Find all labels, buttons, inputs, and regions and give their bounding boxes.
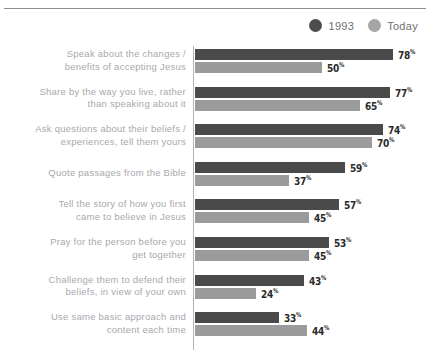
bar-pair: 53%45% xyxy=(195,237,430,263)
category-label-line: Pray for the person before you xyxy=(0,236,186,249)
category-label: Speak about the changes /benefits of acc… xyxy=(0,48,186,73)
percent-sign: % xyxy=(296,311,301,319)
bar-value-label: 37% xyxy=(294,174,311,188)
bar-row: 77% xyxy=(195,87,430,98)
bar-value-number: 74 xyxy=(388,124,400,137)
category-label-line: Tell the story of how you first xyxy=(0,198,186,211)
bar-past xyxy=(195,49,393,60)
bar-past xyxy=(195,162,345,173)
bar-value-label: 45% xyxy=(314,249,331,263)
percent-sign: % xyxy=(356,198,361,206)
category-label-line: Ask questions about their beliefs / xyxy=(0,123,186,136)
category-label-line: experiences, tell them yours xyxy=(0,136,186,149)
percent-sign: % xyxy=(346,236,351,244)
bar-value-label: 65% xyxy=(365,99,382,113)
percent-sign: % xyxy=(410,48,415,56)
bar-value-label: 77% xyxy=(395,86,412,100)
bar-row: 50% xyxy=(195,62,430,73)
category-label: Tell the story of how you firstcame to b… xyxy=(0,198,186,223)
legend-item-1993: 1993 xyxy=(309,19,354,32)
bar-value-label: 53% xyxy=(334,236,351,250)
legend-swatch-circle-icon-1993 xyxy=(309,19,322,32)
bar-value-label: 50% xyxy=(327,61,344,75)
bar-today xyxy=(195,62,322,73)
category-label: Use same basic approach andcontent each … xyxy=(0,311,186,336)
bar-value-number: 77 xyxy=(395,86,407,99)
bar-today xyxy=(195,100,360,111)
percent-sign: % xyxy=(361,161,366,169)
bar-value-number: 53 xyxy=(334,237,346,250)
bar-row: 70% xyxy=(195,137,430,148)
bar-pair: 78%50% xyxy=(195,49,430,75)
category-label: Quote passages from the Bible xyxy=(0,167,186,180)
legend-label-1993: 1993 xyxy=(328,20,354,32)
bar-past xyxy=(195,199,339,210)
bar-value-number: 65 xyxy=(365,99,377,112)
percent-sign: % xyxy=(323,324,328,332)
legend-swatch-circle-icon-today xyxy=(368,19,381,32)
percent-sign: % xyxy=(326,211,331,219)
bar-row: 43% xyxy=(195,275,430,286)
bar-today xyxy=(195,250,309,261)
percent-sign: % xyxy=(407,86,412,94)
clipped-header-strip xyxy=(0,0,430,7)
bar-pair: 57%45% xyxy=(195,199,430,225)
bar-pair: 74%70% xyxy=(195,124,430,150)
bar-value-number: 70 xyxy=(377,137,389,150)
bar-value-label: 43% xyxy=(309,274,326,288)
bar-group: Challenge them to defend theirbeliefs, i… xyxy=(0,274,430,307)
bar-value-number: 24 xyxy=(261,287,273,300)
bar-value-label: 59% xyxy=(350,161,367,175)
bar-value-number: 78 xyxy=(398,49,410,62)
category-label-line: get together xyxy=(0,249,186,262)
bar-pair: 77%65% xyxy=(195,87,430,113)
bar-value-number: 45 xyxy=(314,212,326,225)
bar-group: Use same basic approach andcontent each … xyxy=(0,311,430,344)
bar-today xyxy=(195,137,372,148)
bar-group: Pray for the person before youget togeth… xyxy=(0,236,430,269)
bar-today xyxy=(195,175,289,186)
bar-row: 44% xyxy=(195,325,430,336)
category-label-line: came to believe in Jesus xyxy=(0,211,186,224)
percent-sign: % xyxy=(389,136,394,144)
bar-past xyxy=(195,237,329,248)
category-label-line: Share by the way you live, rather xyxy=(0,86,186,99)
category-label-line: beliefs, in view of your own xyxy=(0,286,186,299)
bar-chart-plot-area: Speak about the changes /benefits of acc… xyxy=(0,44,430,354)
category-label-line: benefits of accepting Jesus xyxy=(0,61,186,74)
bar-group: Quote passages from the Bible59%37% xyxy=(0,161,430,194)
bar-value-label: 24% xyxy=(261,287,278,301)
category-label-line: Challenge them to defend their xyxy=(0,274,186,287)
bar-past xyxy=(195,312,279,323)
bar-row: 33% xyxy=(195,312,430,323)
bar-value-number: 57 xyxy=(344,199,356,212)
header-divider xyxy=(4,8,426,9)
bar-past xyxy=(195,275,304,286)
bar-group: Share by the way you live, ratherthan sp… xyxy=(0,86,430,119)
bar-value-label: 70% xyxy=(377,136,394,150)
bar-value-label: 33% xyxy=(284,311,301,325)
bar-row: 24% xyxy=(195,288,430,299)
bar-row: 78% xyxy=(195,49,430,60)
category-label: Pray for the person before youget togeth… xyxy=(0,236,186,261)
bar-row: 53% xyxy=(195,237,430,248)
percent-sign: % xyxy=(273,287,278,295)
bar-row: 45% xyxy=(195,212,430,223)
bar-past xyxy=(195,87,390,98)
bar-value-label: 78% xyxy=(398,48,415,62)
bar-row: 59% xyxy=(195,162,430,173)
bar-group: Ask questions about their beliefs /exper… xyxy=(0,123,430,156)
bar-today xyxy=(195,212,309,223)
bar-row: 65% xyxy=(195,100,430,111)
bar-today xyxy=(195,288,256,299)
category-label-line: than speaking about it xyxy=(0,98,186,111)
bar-value-number: 59 xyxy=(350,161,362,174)
percent-sign: % xyxy=(399,123,404,131)
bar-today xyxy=(195,325,307,336)
percent-sign: % xyxy=(377,99,382,107)
percent-sign: % xyxy=(306,174,311,182)
bar-row: 74% xyxy=(195,124,430,135)
bar-pair: 33%44% xyxy=(195,312,430,338)
bar-pair: 59%37% xyxy=(195,162,430,188)
category-label: Ask questions about their beliefs /exper… xyxy=(0,123,186,148)
